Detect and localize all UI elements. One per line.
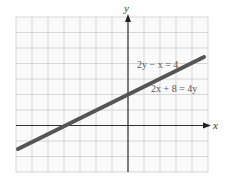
equation-label-1: 2y − x = 4 xyxy=(137,59,178,70)
equation-label-2: 2x + 8 = 4y xyxy=(151,83,197,94)
y-axis-label: y xyxy=(123,2,129,14)
coordinate-plane: x y 2y − x = 4 2x + 8 = 4y xyxy=(0,0,226,183)
x-axis-label: x xyxy=(212,119,218,131)
